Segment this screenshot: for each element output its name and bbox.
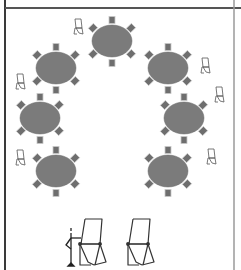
table-upper-right	[144, 44, 191, 94]
oval-table-icon	[92, 25, 132, 57]
chair-icon	[53, 147, 59, 154]
chair-icon	[181, 137, 187, 144]
table-top	[88, 17, 135, 67]
chair-icon	[165, 147, 171, 154]
small-flipchart-icon	[16, 150, 25, 165]
oval-table-icon	[148, 52, 188, 84]
small-flipchart-icon	[207, 149, 216, 164]
chair-icon	[37, 94, 43, 101]
oval-table-icon	[36, 155, 76, 187]
room-layout-diagram	[0, 0, 241, 270]
small-flipchart-icon	[16, 74, 25, 89]
table-middle-right	[160, 94, 207, 144]
chair-icon	[53, 190, 59, 197]
large-flipcharts-group	[79, 219, 154, 265]
chair-icon	[53, 87, 59, 94]
small-flipchart-icon	[201, 58, 210, 73]
small-flipchart-icon	[74, 19, 83, 34]
table-upper-left	[32, 44, 79, 94]
presenter-icon	[66, 228, 81, 266]
chair-icon	[109, 17, 115, 24]
oval-table-icon	[20, 102, 60, 134]
chair-icon	[109, 60, 115, 67]
oval-table-icon	[148, 155, 188, 187]
chair-icon	[165, 87, 171, 94]
flipchart-easel-icon	[79, 219, 106, 265]
chair-icon	[181, 94, 187, 101]
oval-table-icon	[164, 102, 204, 134]
table-middle-left	[16, 94, 63, 144]
chair-icon	[53, 44, 59, 51]
presenter-figure	[66, 228, 81, 266]
chair-icon	[165, 190, 171, 197]
small-flipchart-icon	[215, 87, 224, 102]
flipchart-easel-icon	[127, 219, 154, 265]
room-layout-canvas	[0, 0, 241, 270]
oval-table-icon	[36, 52, 76, 84]
chair-icon	[165, 44, 171, 51]
table-lower-left	[32, 147, 79, 197]
chair-icon	[37, 137, 43, 144]
table-lower-right	[144, 147, 191, 197]
tables-group	[16, 17, 207, 197]
